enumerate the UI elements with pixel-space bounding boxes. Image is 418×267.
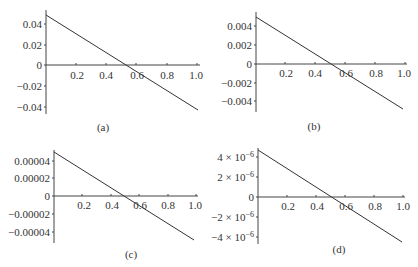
x-tick-label: 0.4 bbox=[308, 67, 322, 79]
y-tick-label: −0.00004 bbox=[8, 226, 50, 238]
panel-caption: (d) bbox=[333, 243, 346, 256]
data-line bbox=[46, 15, 198, 110]
x-tick-label: 0.8 bbox=[369, 67, 383, 79]
x-tick-label: 0.4 bbox=[105, 199, 119, 211]
y-tick-label: −0.004 bbox=[221, 95, 252, 107]
x-tick-label: 0.2 bbox=[70, 69, 84, 81]
y-tick-label: −4 × 10−6 bbox=[211, 230, 254, 243]
x-tick-label: 1.0 bbox=[189, 69, 203, 81]
y-tick-label: 0 bbox=[247, 58, 253, 70]
x-tick-label: 0.8 bbox=[160, 69, 174, 81]
y-tick-label: 0 bbox=[37, 59, 43, 71]
y-tick-label: 0 bbox=[45, 190, 51, 202]
y-tick-label: 0.002 bbox=[227, 39, 252, 51]
y-tick-label: 0.00004 bbox=[14, 155, 50, 167]
y-tick-label: 0.004 bbox=[227, 20, 252, 32]
y-tick-label: −2 × 10−6 bbox=[211, 210, 254, 223]
panel-a: 0.04 0.02 0 −0.02 −0.04 0.2 0.4 0.6 0.8 … bbox=[17, 10, 204, 134]
x-tick-label: 1.0 bbox=[396, 200, 410, 212]
x-tick-label: 0.4 bbox=[310, 200, 324, 212]
y-tick-label: 0.00002 bbox=[14, 172, 50, 184]
panel-caption: (a) bbox=[97, 121, 110, 134]
data-line bbox=[258, 150, 402, 242]
y-tick-label: 0.02 bbox=[23, 39, 42, 51]
x-tick-label: 1.0 bbox=[188, 199, 202, 211]
y-tick-label: 4 × 10−6 bbox=[217, 150, 254, 163]
y-tick-label: 2 × 10−6 bbox=[217, 170, 254, 183]
y-tick-label: 0 bbox=[249, 191, 255, 203]
x-tick-label: 0.2 bbox=[281, 200, 295, 212]
panel-caption: (c) bbox=[125, 248, 138, 261]
y-tick-label: −0.04 bbox=[17, 101, 43, 113]
data-line bbox=[256, 17, 403, 109]
figure-canvas: 0.04 0.02 0 −0.02 −0.04 0.2 0.4 0.6 0.8 … bbox=[0, 0, 418, 267]
y-tick-label: −0.02 bbox=[17, 80, 42, 92]
panel-d: 4 × 10−6 2 × 10−6 0 −2 × 10−6 −4 × 10−6 … bbox=[211, 148, 410, 256]
panel-b: 0.004 0.002 0 −0.002 −0.004 0.2 0.4 0.6 … bbox=[221, 12, 411, 133]
y-tick-label: 0.04 bbox=[23, 18, 43, 30]
x-tick-label: 0.8 bbox=[161, 199, 175, 211]
panel-c: 0.00004 0.00002 0 −0.00002 −0.00004 0.2 … bbox=[8, 150, 202, 261]
panel-caption: (b) bbox=[308, 120, 321, 133]
x-tick-label: 1.0 bbox=[397, 67, 411, 79]
x-tick-label: 0.2 bbox=[279, 67, 293, 79]
x-tick-label: 0.2 bbox=[77, 199, 91, 211]
x-tick-label: 0.4 bbox=[99, 69, 113, 81]
y-tick-label: −0.002 bbox=[221, 77, 252, 89]
y-tick-label: −0.00002 bbox=[8, 208, 50, 220]
x-tick-label: 0.8 bbox=[368, 200, 382, 212]
